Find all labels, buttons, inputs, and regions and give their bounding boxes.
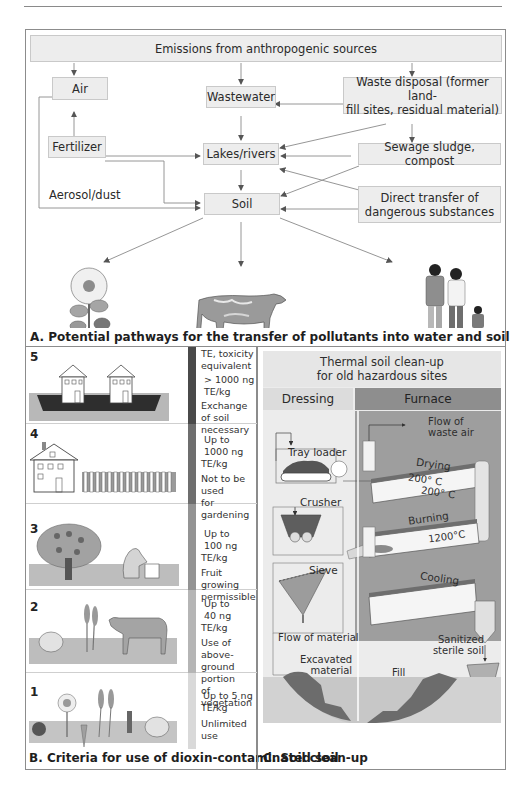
- waste-air-line2: waste air: [428, 427, 474, 438]
- sanitized-line2: sterile soil: [433, 645, 484, 656]
- criteria-row-2: 2 Up to 40 ng TE/kg Use of above- ground…: [26, 590, 257, 673]
- label-sanitized-soil: Sanitized sterile soil: [432, 634, 484, 656]
- node-wastewater: Wastewater: [206, 86, 276, 108]
- label-flow-of-material: Flow of material: [278, 632, 359, 643]
- label-sieve: Sieve: [309, 565, 338, 576]
- label-excavated-material: Excavated material: [300, 654, 352, 676]
- use-line1: Fruit growing: [201, 567, 257, 591]
- threshold-line2: 40 ng TE/kg: [201, 610, 231, 633]
- sanitized-line1: Sanitized: [438, 634, 484, 645]
- label-aerosol-dust: Aerosol/dust: [49, 188, 120, 202]
- node-direct-transfer: Direct transfer of dangerous substances: [358, 186, 501, 223]
- node-fertilizer: Fertilizer: [48, 136, 106, 158]
- houses-contaminated-icon: [29, 361, 169, 421]
- cleanup-title-line2: for old hazardous sites: [263, 369, 501, 383]
- panel-b-dioxin-criteria: 5 TE, toxicity equivalent > 1000 ng TE/k…: [25, 347, 257, 770]
- node-waste-disposal: Waste disposal (former land- fill sites,…: [343, 77, 502, 114]
- node-lakes-rivers: Lakes/rivers: [203, 143, 279, 165]
- column-header-furnace: Furnace: [355, 388, 501, 410]
- criteria-text-1: Up to 5 ng TE/kg Unlimited use: [201, 690, 257, 742]
- threshold-line2: 100 ng TE/kg: [201, 540, 237, 563]
- panel-c-caption: C. Soil clean-up: [263, 751, 368, 765]
- waste-air-line1: Flow of: [428, 416, 464, 427]
- waste-disposal-line2: fill sites, residual material): [346, 103, 499, 117]
- column-header-dressing: Dressing: [263, 388, 353, 410]
- toxicity-bar-3: [188, 504, 196, 590]
- cleanup-title-line1: Thermal soil clean-up: [263, 355, 501, 369]
- label-tray-loader: Tray loader: [288, 447, 346, 458]
- waste-disposal-line1: Waste disposal (former land-: [344, 75, 501, 103]
- node-soil-label: Soil: [232, 197, 253, 211]
- excavated-line2: material: [310, 665, 352, 676]
- use-line1: Unlimited use: [201, 718, 257, 742]
- page-header-rule: [24, 6, 502, 7]
- criteria-row-1: 1 Up to 5 ng TE/kg Unlimited use: [26, 673, 257, 749]
- te-heading-line2: equivalent: [201, 360, 251, 371]
- threshold-line1: Up to: [204, 598, 230, 609]
- te-heading-line1: TE, toxicity: [201, 348, 254, 359]
- threshold-value: Up to 5 ng TE/kg: [201, 690, 253, 713]
- vegetables-crops-icon: [29, 677, 179, 749]
- panel-a-pollutant-pathways: Emissions from anthropogenic sources Air…: [25, 29, 506, 347]
- label-fill: Fill: [392, 667, 405, 678]
- excavated-line1: Excavated: [300, 654, 352, 665]
- cleanup-title: Thermal soil clean-up for old hazardous …: [263, 351, 501, 387]
- crops-cattle-icon: [29, 596, 179, 666]
- toxicity-bar-4: [188, 424, 196, 504]
- node-air: Air: [52, 77, 108, 100]
- label-crusher: Crusher: [300, 497, 341, 508]
- toxicity-bar-1: [188, 673, 196, 749]
- direct-transfer-line2: dangerous substances: [365, 205, 494, 219]
- node-emissions-label: Emissions from anthropogenic sources: [155, 42, 377, 56]
- toxicity-bar-5: [188, 347, 196, 424]
- label-flow-of-waste-air: Flow of waste air: [428, 416, 474, 438]
- node-fertilizer-label: Fertilizer: [52, 140, 102, 154]
- criteria-row-5: 5 TE, toxicity equivalent > 1000 ng TE/k…: [26, 347, 257, 424]
- panel-a-caption: A. Potential pathways for the transfer o…: [30, 330, 510, 344]
- fruit-tree-gardener-icon: [29, 522, 179, 588]
- criteria-row-3: 3 Up to 100 ng TE/kg Fruit growing permi…: [26, 504, 257, 590]
- node-emissions: Emissions from anthropogenic sources: [30, 35, 502, 62]
- use-line1: Not to be used: [201, 473, 257, 497]
- node-air-label: Air: [72, 82, 88, 96]
- node-soil: Soil: [204, 193, 280, 215]
- direct-transfer-line1: Direct transfer of: [380, 191, 478, 205]
- house-garden-fence-icon: [28, 438, 178, 494]
- threshold-line2: 1000 ng TE/kg: [201, 446, 243, 469]
- threshold-line1: Up to: [204, 434, 230, 445]
- panel-a-caption-bar: A. Potential pathways for the transfer o…: [25, 328, 506, 347]
- criteria-text-5: TE, toxicity equivalent > 1000 ng TE/kg …: [201, 348, 257, 436]
- criteria-row-4: 4 Up to 1000 ng TE/kg Not: [26, 424, 257, 504]
- use-line1: Exchange of soil: [201, 400, 247, 423]
- node-sewage-sludge: Sewage sludge, compost: [358, 143, 501, 165]
- threshold-value: > 1000 ng TE/kg: [204, 374, 257, 398]
- node-wastewater-label: Wastewater: [207, 90, 275, 104]
- node-lakes-rivers-label: Lakes/rivers: [206, 147, 275, 161]
- node-sewage-sludge-label: Sewage sludge, compost: [359, 140, 500, 168]
- use-line1: Use of above-: [201, 637, 257, 661]
- toxicity-bar-2: [188, 590, 196, 673]
- panel-c-soil-cleanup: Thermal soil clean-up for old hazardous …: [257, 347, 506, 770]
- threshold-line1: Up to: [204, 528, 230, 539]
